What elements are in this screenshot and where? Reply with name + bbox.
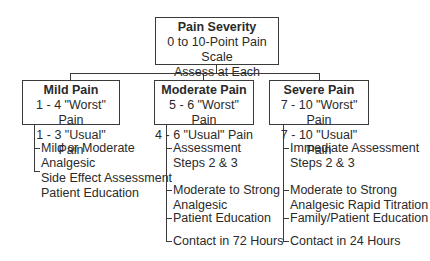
node-mild-pain: Mild Pain 1 - 4 "Worst" Pain 1 - 3 "Usua… xyxy=(22,80,120,125)
moderate-tick-1 xyxy=(166,148,172,149)
mild-item-1: Mild or Moderate Analgesic xyxy=(41,141,135,171)
severe-tick-4 xyxy=(283,241,289,242)
mild-tick-2 xyxy=(34,171,40,172)
severe-item-4: Contact in 24 Hours xyxy=(290,234,400,249)
mild-worst: 1 - 4 "Worst" Pain xyxy=(23,98,119,128)
moderate-item-2: Moderate to Strong Analgesic xyxy=(173,183,280,213)
moderate-title: Moderate Pain xyxy=(155,83,253,98)
moderate-item-1: Assessment Steps 2 & 3 xyxy=(173,141,241,171)
severe-tick-3 xyxy=(283,218,289,219)
branch-bar xyxy=(70,73,320,74)
root-title: Pain Severity xyxy=(156,20,278,35)
moderate-tick-4 xyxy=(166,241,172,242)
node-severe-pain: Severe Pain 7 - 10 "Worst" Pain 7 - 10 "… xyxy=(269,80,369,125)
moderate-tick-2 xyxy=(166,190,172,191)
moderate-tick-3 xyxy=(166,218,172,219)
moderate-item-4: Contact in 72 Hours xyxy=(173,234,283,249)
severe-tick-2 xyxy=(283,190,289,191)
mild-tick-1 xyxy=(34,148,40,149)
severe-item-2: Moderate to Strong Analgesic Rapid Titra… xyxy=(290,183,428,213)
moderate-worst: 5 - 6 "Worst" Pain xyxy=(155,98,253,128)
root-line-1: 0 to 10-Point Pain Scale xyxy=(156,35,278,65)
severe-tick-1 xyxy=(283,148,289,149)
root-node-pain-severity: Pain Severity 0 to 10-Point Pain Scale A… xyxy=(155,17,279,65)
moderate-stem xyxy=(166,125,167,241)
mild-title: Mild Pain xyxy=(23,83,119,98)
severe-item-1: Immediate Assessment Steps 2 & 3 xyxy=(290,141,419,171)
severe-title: Severe Pain xyxy=(270,83,368,98)
severe-worst: 7 - 10 "Worst" Pain xyxy=(270,98,368,128)
severe-stem xyxy=(283,125,284,241)
root-stem xyxy=(216,64,217,73)
node-moderate-pain: Moderate Pain 5 - 6 "Worst" Pain 4 - 6 "… xyxy=(154,80,254,125)
moderate-item-3: Patient Education xyxy=(173,211,271,226)
mild-item-2: Side Effect Assessment Patient Education xyxy=(41,171,172,201)
severe-item-3: Family/Patient Education xyxy=(290,211,428,226)
